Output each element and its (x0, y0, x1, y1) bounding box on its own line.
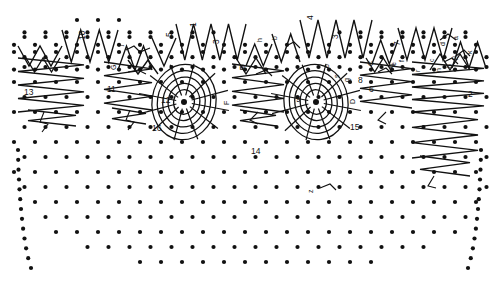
lattice-dot (222, 200, 226, 204)
lattice-dot (484, 185, 488, 189)
lattice-dot (337, 155, 341, 159)
lattice-dot (75, 68, 79, 72)
lattice-dot (117, 50, 121, 54)
lattice-dot (285, 68, 289, 72)
lattice-dot (253, 215, 257, 219)
lattice-dot (316, 215, 320, 219)
lattice-dot (16, 148, 20, 152)
lattice-dot (264, 43, 268, 47)
lattice-dot (127, 35, 131, 39)
lattice-dot (96, 68, 100, 72)
number-label-16: 16 (152, 123, 162, 133)
lattice-dot (243, 260, 247, 264)
lattice-dot (22, 185, 26, 189)
lattice-dot (106, 155, 110, 159)
lattice-dot (232, 215, 236, 219)
lattice-dot (169, 125, 173, 129)
lattice-dot (64, 155, 68, 159)
lattice-dot (54, 230, 58, 234)
lattice-dot (159, 68, 163, 72)
lattice-dot (442, 215, 446, 219)
lattice-dot (358, 155, 362, 159)
lattice-dot (348, 260, 352, 264)
lattice-dot (43, 185, 47, 189)
lattice-dot (316, 95, 320, 99)
lattice-dot (33, 140, 37, 144)
lattice-dot (43, 155, 47, 159)
lattice-dot (106, 30, 110, 34)
lattice-dot (54, 43, 58, 47)
lattice-dot (64, 95, 68, 99)
letter-label-ltr-c: c (428, 58, 435, 62)
lattice-dot (222, 140, 226, 144)
lattice-dot (75, 50, 79, 54)
lattice-dot (463, 35, 467, 39)
lattice-dot (475, 217, 479, 221)
lattice-dot (138, 43, 142, 47)
lattice-dot (327, 230, 331, 234)
lattice-dot (211, 155, 215, 159)
lattice-dot (232, 185, 236, 189)
lattice-dot (285, 140, 289, 144)
letter-label-ltr-h: h (256, 38, 263, 42)
lattice-dot (127, 30, 131, 34)
lattice-dot (169, 55, 173, 59)
lattice-dot (285, 260, 289, 264)
lattice-dot (17, 187, 21, 191)
lattice-dot (180, 260, 184, 264)
lattice-dot (432, 43, 436, 47)
lattice-dot (169, 155, 173, 159)
lattice-dot (476, 207, 480, 211)
letter-label-ltr-g: g (343, 78, 351, 82)
lattice-dot (337, 55, 341, 59)
lattice-dot (243, 230, 247, 234)
lattice-dot (316, 185, 320, 189)
lattice-dot (12, 80, 16, 84)
lattice-dot (442, 185, 446, 189)
lattice-dot (106, 185, 110, 189)
lattice-dot (148, 215, 152, 219)
lattice-dot (148, 155, 152, 159)
lattice-dot (306, 230, 310, 234)
lattice-dot (379, 245, 383, 249)
lattice-dot (159, 170, 163, 174)
number-label-15: 15 (350, 122, 360, 132)
lattice-dot (369, 230, 373, 234)
lattice-dot (243, 80, 247, 84)
lattice-dot (400, 245, 404, 249)
lattice-dot (253, 245, 257, 249)
lattice-dot (159, 50, 163, 54)
lattice-dot (432, 200, 436, 204)
letter-label-ltr-b: b (271, 36, 278, 40)
lattice-dot (96, 140, 100, 144)
lattice-dot (201, 43, 205, 47)
leader-8 (378, 112, 386, 124)
lattice-dot (75, 110, 79, 114)
lattice-dot (369, 200, 373, 204)
lattice-dot (201, 140, 205, 144)
letter-label-ltr-e: e (390, 62, 397, 66)
lattice-dot (316, 155, 320, 159)
lattice-dot (253, 95, 257, 99)
lattice-dot (358, 215, 362, 219)
fan-right-2b (412, 112, 478, 158)
lattice-dot (337, 245, 341, 249)
lattice-dot (274, 185, 278, 189)
lattice-dot (432, 50, 436, 54)
lattice-dot (474, 227, 478, 231)
lattice-dot (243, 50, 247, 54)
lattice-dot (421, 245, 425, 249)
lattice-dot (327, 200, 331, 204)
lattice-dot (96, 50, 100, 54)
lattice-dot (222, 68, 226, 72)
lattice-dot (106, 95, 110, 99)
number-label-10: 10 (77, 30, 87, 40)
letter-label-ltr-G: G (110, 65, 117, 70)
number-label-1: 1 (188, 22, 198, 27)
lattice-dot (201, 230, 205, 234)
lattice-dot (148, 55, 152, 59)
leader-2 (126, 46, 150, 52)
leader-11 (428, 176, 436, 188)
lattice-dot (327, 260, 331, 264)
lattice-dot (96, 230, 100, 234)
